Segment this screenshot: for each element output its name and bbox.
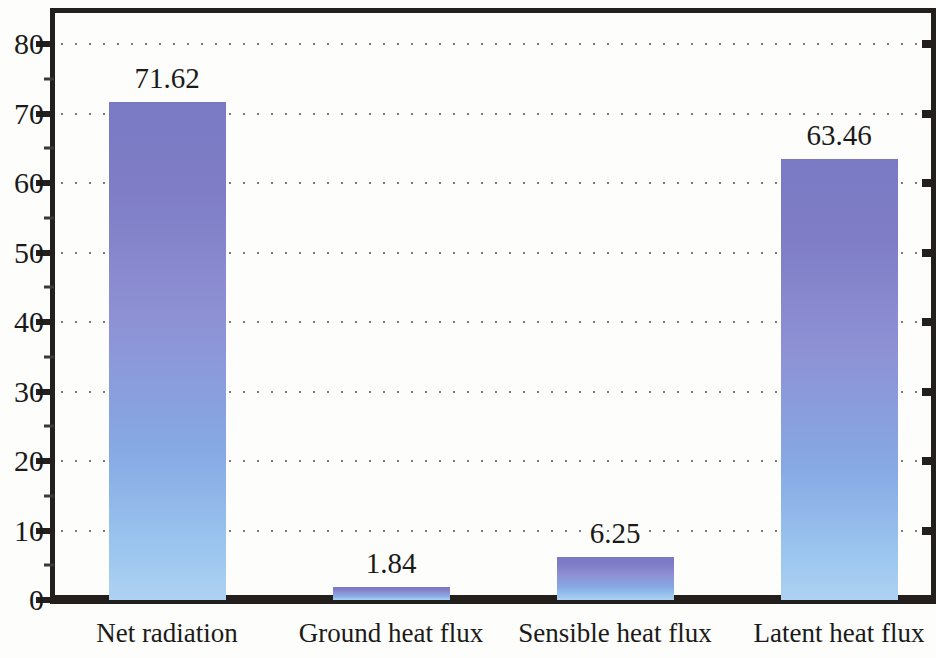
bar[interactable] (333, 587, 450, 600)
bar[interactable] (109, 102, 226, 600)
bar-value-label: 6.25 (590, 517, 641, 550)
bar-value-label: 71.62 (134, 62, 199, 95)
bar-value-label: 1.84 (366, 547, 417, 580)
bar-value-label: 63.46 (806, 119, 871, 152)
bars-group: 71.621.846.2563.46 (0, 0, 936, 658)
bar[interactable] (781, 159, 898, 600)
x-axis-category-label: Ground heat flux (299, 618, 483, 649)
x-axis-category-label: Latent heat flux (754, 618, 925, 649)
bar-chart: 01020304050607080 71.621.846.2563.46 Net… (0, 0, 936, 658)
x-axis-category-label: Sensible heat flux (518, 618, 711, 649)
bar[interactable] (557, 557, 674, 600)
x-axis-category-label: Net radiation (96, 618, 238, 649)
